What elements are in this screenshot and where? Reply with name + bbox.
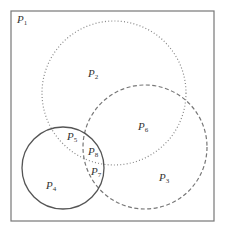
region-label-p2: P2 <box>88 68 98 81</box>
region-label-p6: P6 <box>138 121 148 134</box>
region-label-p4: P4 <box>46 180 56 193</box>
dotted-circle <box>42 21 186 165</box>
region-label-p3: P3 <box>159 172 169 185</box>
universe-frame <box>11 11 214 221</box>
region-label-p7: P7 <box>91 166 101 179</box>
region-label-p8: P8 <box>88 146 98 159</box>
region-label-p5: P5 <box>67 131 77 144</box>
dashed-circle <box>83 85 207 209</box>
venn-diagram <box>0 0 227 233</box>
region-label-p1: P1 <box>17 14 27 27</box>
